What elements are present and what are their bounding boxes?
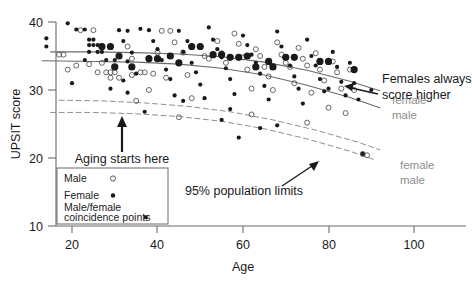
- y-tick-label-20: 20: [29, 152, 43, 166]
- x-tick-label-40: 40: [150, 238, 164, 252]
- filled-dot-icon: [111, 193, 115, 197]
- data-point-coincidence: [176, 60, 182, 66]
- y-tick-label-30: 30: [29, 84, 43, 98]
- data-point-female: [228, 107, 232, 111]
- data-point-female: [318, 77, 322, 81]
- y-tick-label-40: 40: [29, 16, 43, 30]
- data-point-female: [339, 80, 343, 84]
- x-tick-label-60: 60: [236, 238, 250, 252]
- data-point-female: [309, 54, 313, 58]
- data-point-female: [348, 61, 352, 65]
- data-point-female: [108, 87, 112, 91]
- data-point-coincidence: [155, 56, 161, 62]
- data-point-coincidence: [317, 58, 323, 64]
- annotation-population-limits-text: 95% population limits: [185, 184, 303, 198]
- data-point-coincidence: [351, 67, 357, 73]
- legend-item-female-label: Female: [64, 189, 99, 201]
- curve-label-limit-male: male: [400, 174, 425, 186]
- data-point-female: [121, 39, 125, 43]
- data-point-female: [177, 29, 181, 33]
- data-point-coincidence: [326, 58, 332, 64]
- data-point-coincidence: [107, 43, 113, 49]
- data-point-female: [331, 50, 335, 54]
- data-point-female: [194, 70, 198, 74]
- data-point-female: [134, 72, 138, 76]
- data-point-female: [241, 34, 245, 38]
- annotation-females-higher-line1: Females always: [382, 72, 472, 86]
- data-point-female: [155, 47, 159, 51]
- data-point-female: [87, 38, 91, 42]
- y-tick-label-10: 10: [29, 220, 43, 234]
- data-point-female: [104, 58, 108, 62]
- data-point-female: [113, 58, 117, 62]
- data-point-female: [44, 44, 48, 48]
- data-point-coincidence: [116, 53, 122, 59]
- data-point-coincidence: [112, 64, 118, 70]
- data-point-female: [224, 66, 228, 70]
- data-point-female: [361, 152, 365, 156]
- data-point-female: [220, 118, 224, 122]
- data-point-female: [207, 25, 211, 29]
- data-point-coincidence: [266, 58, 272, 64]
- data-point-female: [185, 39, 189, 43]
- data-point-female: [202, 96, 206, 100]
- data-point-female: [181, 50, 185, 54]
- data-point-coincidence: [244, 53, 250, 59]
- data-point-female: [83, 27, 87, 31]
- data-point-female: [237, 136, 241, 140]
- data-point-female: [83, 58, 87, 62]
- annotation-females-higher-line2: score higher: [382, 88, 451, 102]
- curve-label-regression-male: male: [392, 109, 417, 121]
- data-point-female: [125, 59, 129, 63]
- data-point-female: [138, 27, 142, 31]
- data-point-female: [151, 39, 155, 43]
- data-point-female: [228, 77, 232, 81]
- x-tick-label-100: 100: [404, 238, 425, 252]
- data-point-female: [130, 51, 134, 55]
- data-point-female: [258, 126, 262, 130]
- data-point-female: [87, 43, 91, 47]
- data-point-female: [279, 44, 283, 48]
- data-point-female: [66, 21, 70, 25]
- data-point-female: [232, 92, 236, 96]
- data-point-coincidence: [219, 52, 225, 58]
- data-point-coincidence: [236, 54, 242, 60]
- x-tick-label-20: 20: [65, 238, 79, 252]
- data-point-female: [164, 68, 168, 72]
- data-point-female: [275, 123, 279, 127]
- data-point-coincidence: [210, 52, 216, 58]
- data-point-female: [275, 29, 279, 33]
- data-point-female: [143, 110, 147, 114]
- data-point-female: [100, 50, 104, 54]
- chart-canvas: 40 30 20 10 20 40 60 80 100 Age UPSIT sc…: [0, 0, 472, 282]
- data-point-female: [305, 38, 309, 42]
- data-point-female: [211, 38, 215, 42]
- data-point-coincidence: [197, 43, 203, 49]
- data-point-coincidence: [167, 53, 173, 59]
- data-point-female: [96, 50, 100, 54]
- x-tick-label-80: 80: [322, 238, 336, 252]
- data-point-female: [121, 78, 125, 82]
- data-point-female: [190, 61, 194, 65]
- data-point-female: [322, 89, 326, 93]
- data-point-female: [117, 28, 121, 32]
- data-point-female: [44, 36, 48, 40]
- scatter-plot-svg: 40 30 20 10 20 40 60 80 100 Age UPSIT sc…: [0, 0, 472, 282]
- data-point-coincidence: [270, 64, 276, 70]
- data-point-female: [245, 43, 249, 47]
- small-square-icon: [144, 215, 148, 219]
- data-point-female: [326, 87, 330, 91]
- curve-label-limit-female: female: [400, 159, 435, 171]
- x-axis-title: Age: [232, 260, 254, 274]
- data-point-female: [296, 87, 300, 91]
- data-point-female: [74, 27, 78, 31]
- annotation-aging-starts-text: Aging starts here: [75, 152, 170, 166]
- data-point-female: [168, 77, 172, 81]
- data-point-female: [70, 81, 74, 85]
- data-point-coincidence: [189, 43, 195, 49]
- data-point-female: [181, 99, 185, 103]
- figure-root: 40 30 20 10 20 40 60 80 100 Age UPSIT sc…: [0, 0, 472, 282]
- legend-item-male-label: Male: [64, 172, 87, 184]
- y-axis-title: UPSIT score: [9, 89, 23, 160]
- data-point-female: [356, 97, 360, 101]
